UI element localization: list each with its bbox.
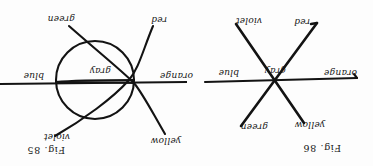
label-orange: orange [324,68,357,78]
figure-85-caption: Fig. 85 [27,145,65,156]
label-green: green [47,14,75,24]
label-orange: orange [160,71,193,81]
figure-86-caption: Fig. 86 [303,143,341,154]
line-orange-blue [205,78,357,82]
label-blue: blue [23,71,44,81]
label-blue: blue [218,68,239,78]
label-green: green [240,122,268,132]
label-violet: violet [236,16,262,26]
scanned-page: Fig. 86 yellow green orange blue gray re… [0,0,373,166]
label-red: red [294,17,310,27]
line-red-tip [311,23,317,24]
label-yellow: yellow [295,120,326,130]
figure-86-drawing [187,0,373,166]
label-yellow: yellow [151,136,182,146]
label-violet: violet [44,132,70,142]
label-gray-center: gray [265,66,286,76]
figure-85: Fig. 85 yellow violet orange blue gray r… [0,0,187,166]
label-gray-center: gray [90,66,111,76]
label-red: red [151,15,167,25]
figure-86: Fig. 86 yellow green orange blue gray re… [187,0,373,166]
